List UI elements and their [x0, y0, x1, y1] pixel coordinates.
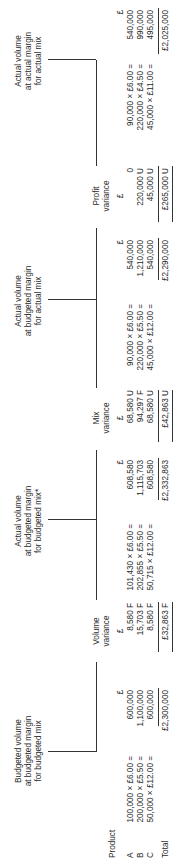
- total-rule: [158, 688, 159, 726]
- row-a-abm-calc: 101,430 × £6.00 =: [126, 524, 136, 614]
- header-line: Actual volume: [14, 6, 24, 116]
- header-line: at budgeted margin: [24, 696, 34, 806]
- header-line: Volume: [92, 601, 102, 661]
- row-c-aam-calc: 45,000 × £12.00 =: [146, 304, 156, 394]
- row-c-aa-calc: 45,000 × £11.00 =: [146, 64, 156, 154]
- row-c-aa-value: 495,000: [146, 10, 156, 70]
- row-c-budgeted-calc: 50,000 × £12.00 =: [146, 756, 156, 846]
- row-b-budgeted-calc: 200,000 × £5.50 =: [136, 756, 146, 846]
- currency-symbol: £: [116, 388, 126, 448]
- header-actual-actual-margin: Actual volume at actual margin for actua…: [14, 6, 44, 116]
- header-line: for budgeted mix: [34, 696, 44, 806]
- row-a-aa-value: 540,000: [126, 10, 136, 70]
- connector-line: [48, 299, 96, 300]
- total-rule: [158, 390, 159, 442]
- total-rule: [158, 166, 159, 222]
- row-a-aam-calc: 90,000 × £6.00 =: [126, 304, 136, 394]
- row-a-profit-variance: 0: [126, 168, 136, 226]
- header-line: variance: [102, 388, 112, 448]
- row-b-aam-value: 1,210,000: [136, 240, 146, 300]
- header-line: at budgeted margin: [24, 246, 34, 356]
- total-actual-budgeted-mix: £2,332,863: [161, 460, 171, 520]
- currency-symbol: £: [116, 10, 126, 40]
- connector-line: [96, 300, 97, 388]
- total-volume-variance: £32,863 F: [161, 603, 171, 661]
- total-rule: [172, 602, 173, 652]
- row-b-aam-calc: 220,000 × £5.50 =: [136, 304, 146, 394]
- total-rule: [172, 390, 173, 442]
- header-product: Product: [108, 830, 118, 858]
- header-line: Budgeted volume: [14, 696, 24, 806]
- row-c-abm-calc: 50,715 × £12.00 =: [146, 524, 156, 614]
- row-b-aa-calc: 220,000 × £4.50 =: [136, 64, 146, 154]
- row-b-budgeted-value: 1,100,000: [136, 690, 146, 750]
- total-profit-variance: £265,000 U: [161, 168, 171, 226]
- row-a-aa-calc: 90,000 × £6.00 =: [126, 64, 136, 154]
- currency-symbol: £: [116, 601, 126, 661]
- total-rule: [158, 458, 159, 500]
- row-c-profit-variance: 45,000 U: [146, 168, 156, 226]
- header-line: for actual mix: [34, 6, 44, 116]
- header-line: variance: [102, 601, 112, 661]
- header-volume-variance: Volume variance: [92, 601, 112, 661]
- header-mix-variance: Mix variance: [92, 388, 112, 448]
- header-actual-actual-mix: Actual volume at budgeted margin for act…: [14, 246, 44, 356]
- header-line: for actual mix: [34, 246, 44, 356]
- total-budgeted: £2,300,000: [161, 690, 171, 750]
- row-c-product: C: [146, 852, 156, 858]
- row-b-product: B: [136, 853, 146, 858]
- row-c-budgeted-value: 600,000: [146, 690, 156, 750]
- currency-symbol: £: [116, 240, 126, 270]
- row-a-product: A: [126, 853, 136, 858]
- currency-symbol: £: [116, 460, 126, 490]
- connector-line: [96, 60, 97, 166]
- total-mix-variance: £42,863 U: [161, 390, 171, 448]
- connector-line: [96, 450, 97, 520]
- total-rule: [172, 166, 173, 222]
- header-line: Profit: [92, 166, 102, 226]
- row-c-abm-value: 608,580: [146, 460, 156, 520]
- row-a-abm-value: 608,580: [126, 460, 136, 520]
- header-line: Actual volume: [14, 246, 24, 356]
- total-label: Total: [161, 841, 171, 858]
- row-a-budgeted-calc: 100,000 × £6.00 =: [126, 756, 136, 846]
- header-line: for budgeted mix*: [34, 466, 44, 576]
- currency-symbol: £: [116, 166, 126, 226]
- header-line: at actual margin: [24, 6, 34, 116]
- row-a-budgeted-value: 600,000: [126, 690, 136, 750]
- row-c-mix-variance: 68,580 U: [146, 390, 156, 448]
- total-rule: [158, 238, 159, 280]
- header-profit-variance: Profit variance: [92, 166, 112, 226]
- row-b-aa-value: 990,000: [136, 10, 146, 70]
- connector-line: [96, 228, 97, 300]
- variance-analysis-table: Product Budgeted volume at budgeted marg…: [0, 0, 182, 866]
- header-actual-budgeted-mix: Actual volume at budgeted margin for bud…: [14, 466, 44, 576]
- connector-line: [96, 520, 97, 600]
- row-b-mix-variance: 94,297 F: [136, 390, 146, 448]
- header-line: at budgeted margin: [24, 466, 34, 576]
- row-b-profit-variance: 220,000 U: [136, 168, 146, 226]
- connector-line: [48, 59, 96, 60]
- header-line: variance: [102, 166, 112, 226]
- row-c-aam-value: 540,000: [146, 240, 156, 300]
- connector-line: [48, 751, 96, 752]
- row-a-mix-variance: 68,580 U: [126, 390, 136, 448]
- total-actual-actual-margin: £2,025,000: [161, 10, 171, 70]
- connector-line: [48, 519, 96, 520]
- total-rule: [158, 8, 159, 54]
- row-b-abm-value: 1,115,703: [136, 460, 146, 520]
- connector-line: [96, 662, 97, 752]
- row-a-aam-value: 540,000: [126, 240, 136, 300]
- currency-symbol: £: [116, 690, 126, 720]
- total-rule: [158, 602, 159, 652]
- total-actual-actual-mix: £2,290,000: [161, 240, 171, 300]
- header-line: Mix: [92, 388, 102, 448]
- header-budgeted: Budgeted volume at budgeted margin for b…: [14, 696, 44, 806]
- row-b-abm-calc: 202,855 × £5.50 =: [136, 524, 146, 614]
- header-line: Actual volume: [14, 466, 24, 576]
